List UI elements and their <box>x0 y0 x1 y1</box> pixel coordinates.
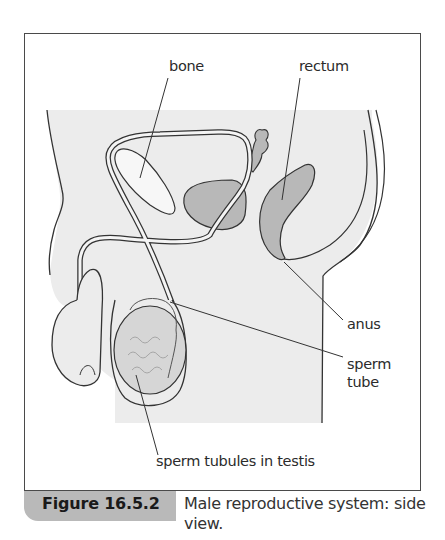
figure-caption: Male reproductive system: side view. <box>184 494 429 534</box>
label-anus: anus <box>347 316 381 333</box>
label-bone: bone <box>169 58 204 75</box>
label-rectum: rectum <box>299 58 349 75</box>
testis-shape <box>114 306 186 394</box>
label-sperm-tube-1: sperm <box>347 356 391 373</box>
figure-number: Figure 16.5.2 <box>42 494 160 513</box>
label-testis: sperm tubules in testis <box>156 453 315 470</box>
label-sperm-tube-2: tube <box>347 374 379 391</box>
